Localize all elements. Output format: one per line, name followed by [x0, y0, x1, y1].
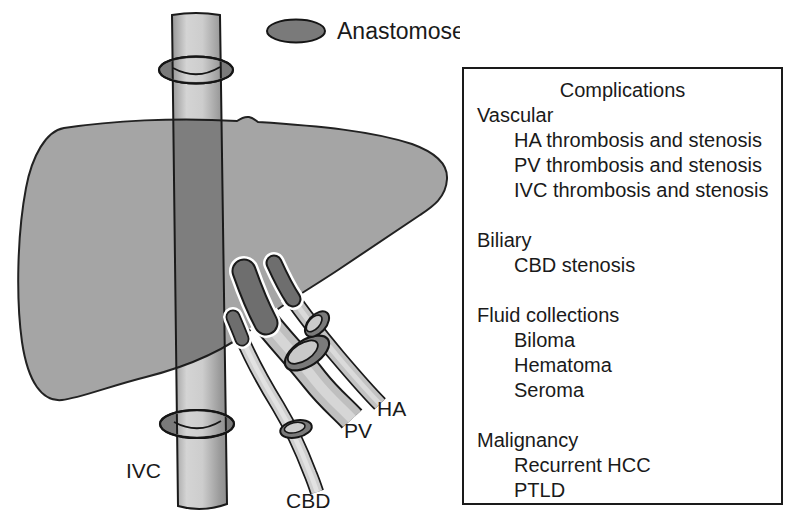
section-heading: Biliary [464, 228, 781, 253]
liver-shape [18, 117, 447, 400]
section-malignancy: Malignancy Recurrent HCC PTLD [464, 428, 781, 503]
complication-item: PV thrombosis and stenosis [464, 153, 781, 178]
complications-box: Complications Vascular HA thrombosis and… [462, 67, 783, 505]
complication-item: HA thrombosis and stenosis [464, 128, 781, 153]
complication-item: Hematoma [464, 353, 781, 378]
label-pv: PV [344, 419, 372, 442]
section-heading: Malignancy [464, 428, 781, 453]
section-fluid-collections: Fluid collections Biloma Hematoma Seroma [464, 303, 781, 403]
legend-label: Anastomoses [337, 18, 460, 44]
section-biliary: Biliary CBD stenosis [464, 228, 781, 278]
complications-title: Complications [464, 78, 781, 103]
complication-item: CBD stenosis [464, 253, 781, 278]
figure: IVC CBD PV HA Anastomoses Complications … [0, 0, 788, 525]
complication-item: Biloma [464, 328, 781, 353]
liver-transplant-diagram: IVC CBD PV HA Anastomoses [0, 0, 460, 525]
label-ivc: IVC [126, 459, 161, 482]
complication-item: PTLD [464, 478, 781, 503]
label-cbd: CBD [286, 489, 330, 512]
label-ha: HA [377, 397, 406, 420]
legend-anastomosis-swatch [267, 20, 325, 43]
section-heading: Vascular [464, 103, 781, 128]
complication-item: IVC thrombosis and stenosis [464, 178, 781, 203]
complication-item: Seroma [464, 378, 781, 403]
section-heading: Fluid collections [464, 303, 781, 328]
legend: Anastomoses [267, 18, 460, 44]
section-vascular: Vascular HA thrombosis and stenosis PV t… [464, 103, 781, 203]
complication-item: Recurrent HCC [464, 453, 781, 478]
